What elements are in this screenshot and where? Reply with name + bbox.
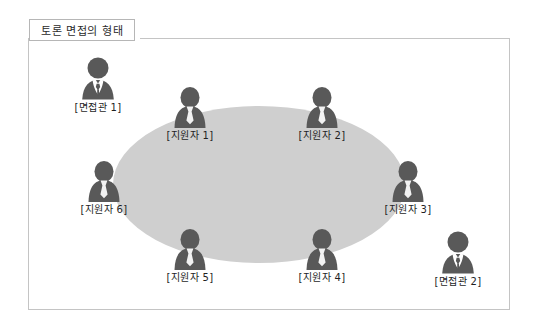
- applicant-figure-icon: [387, 160, 429, 202]
- applicant-figure-icon: [169, 228, 211, 270]
- person-7: [지원자 6]: [67, 160, 141, 216]
- person-label: [지원자 1]: [166, 129, 213, 142]
- page-title: 토론 면접의 형태: [41, 22, 123, 38]
- person-1: [면접관 1]: [61, 56, 135, 114]
- person-2: [지원자 1]: [153, 86, 227, 142]
- person-label: [면접관 1]: [74, 101, 121, 114]
- person-label: [지원자 4]: [298, 271, 345, 284]
- person-5: [지원자 4]: [285, 228, 359, 284]
- person-4: [지원자 3]: [371, 160, 445, 216]
- person-8: [면접관 2]: [421, 230, 495, 288]
- interviewer-figure-icon: [78, 56, 118, 100]
- applicant-figure-icon: [169, 86, 211, 128]
- applicant-figure-icon: [301, 228, 343, 270]
- interviewer-figure-icon: [438, 230, 478, 274]
- person-label: [지원자 3]: [384, 203, 431, 216]
- person-label: [지원자 5]: [166, 271, 213, 284]
- person-label: [면접관 2]: [434, 275, 481, 288]
- person-label: [지원자 6]: [80, 203, 127, 216]
- applicant-figure-icon: [301, 86, 343, 128]
- person-6: [지원자 5]: [153, 228, 227, 284]
- applicant-figure-icon: [83, 160, 125, 202]
- person-3: [지원자 2]: [285, 86, 359, 142]
- person-label: [지원자 2]: [298, 129, 345, 142]
- diagram-canvas: 토론 면접의 형태 [면접관 1][지원자 1][지원자 2][지원자 3][지…: [0, 0, 535, 327]
- diagram-title-tab: 토론 면접의 형태: [29, 19, 135, 41]
